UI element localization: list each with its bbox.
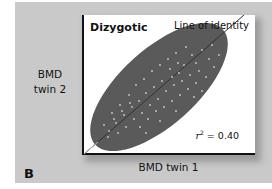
x-axis-label: BMD twin 1 (82, 161, 255, 173)
y-axis-label: BMD twin 2 (20, 67, 80, 97)
panel-letter: B (24, 166, 34, 181)
r-squared-annotation: r2 = 0.40 (195, 129, 239, 141)
identity-line-tail (84, 142, 98, 154)
identity-line-label: Line of identity (174, 20, 249, 31)
plot-area: Dizygotic Line of identity r2 = 0.40 (82, 15, 255, 155)
r-squared-value: = 0.40 (204, 130, 239, 141)
chart-title: Dizygotic (90, 21, 147, 34)
y-axis-label-line2: twin 2 (20, 82, 80, 97)
y-axis-label-line1: BMD (20, 67, 80, 82)
